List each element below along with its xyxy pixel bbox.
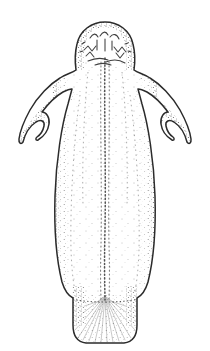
specimen-illustration [0, 0, 210, 351]
right-margin-stipple [130, 66, 158, 306]
left-margin-stipple [52, 66, 80, 306]
figure-container: Specimen line illustration [0, 0, 210, 351]
